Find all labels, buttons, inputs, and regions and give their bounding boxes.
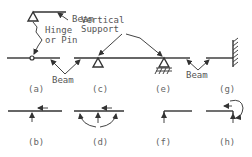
beam-mid-arrow-left — [51, 60, 65, 74]
vertical-support-label-line2: Support — [81, 24, 119, 34]
hinge-pin-icon — [30, 56, 34, 60]
moment-arrow-left — [80, 114, 96, 127]
caption-c: (c) — [92, 84, 108, 94]
beam-right-arrow-right — [198, 60, 209, 70]
beam-mid-arrow-right — [65, 60, 80, 74]
reaction-f — [164, 111, 192, 123]
moment-arrow-right — [100, 114, 116, 127]
caption-g: (g) — [219, 84, 235, 94]
pin-support-icon — [159, 58, 169, 67]
beam-top-arrow — [58, 13, 68, 20]
fixed-wall-icon — [233, 38, 238, 67]
vertical-support-leader-right — [126, 34, 162, 56]
beam-right-label: Beam — [186, 70, 208, 80]
caption-e: (e) — [155, 84, 171, 94]
hinge-leader-line — [33, 22, 42, 54]
hinge-label-line2: or Pin — [45, 35, 78, 45]
caption-d: (d) — [92, 137, 108, 147]
hinge-label-line1: Hinge — [45, 25, 72, 35]
triangle-support-icon — [93, 58, 103, 67]
caption-a: (a) — [28, 84, 44, 94]
pinned-support — [155, 58, 172, 74]
beam-support-diagram: Beam Hinge or Pin Vertical Support Beam … — [0, 0, 252, 157]
reaction-d — [74, 108, 124, 127]
hinge-beam — [7, 56, 60, 60]
moment-arrow — [230, 100, 243, 118]
reaction-b — [8, 108, 62, 122]
caption-f: (f) — [155, 137, 171, 147]
caption-b: (b) — [28, 137, 44, 147]
vertical-support-leader-left — [99, 34, 122, 55]
reaction-h — [206, 100, 243, 123]
hinge-top-symbol — [28, 12, 66, 21]
beam-right-arrow-left — [187, 60, 198, 70]
beam-mid-label: Beam — [52, 75, 74, 85]
vertical-support-beam — [74, 58, 164, 67]
caption-h: (h) — [219, 137, 235, 147]
